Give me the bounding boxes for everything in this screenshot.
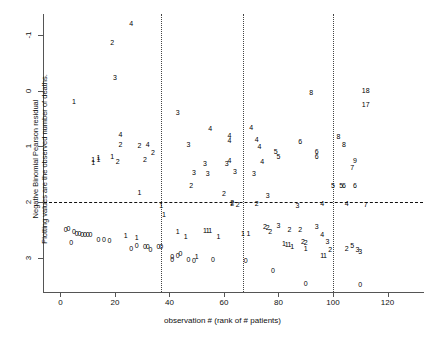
data-point: 3 — [358, 247, 362, 254]
data-point: 8 — [309, 88, 313, 95]
data-point: 2 — [116, 157, 120, 164]
data-point: 0 — [88, 231, 92, 238]
data-point: 1 — [91, 158, 95, 165]
scatter-plot-figure: 3210-1 020406080100120 00000000001111100… — [0, 0, 445, 341]
data-point: 5 — [277, 152, 281, 159]
data-point: 2 — [345, 244, 349, 251]
data-point: 3 — [326, 237, 330, 244]
data-point: 0 — [102, 235, 106, 242]
data-point: 1 — [72, 97, 76, 104]
data-point: 1 — [195, 253, 199, 260]
data-point: 1 — [124, 232, 128, 239]
divider-line-x100 — [333, 14, 334, 292]
data-point: 2 — [236, 200, 240, 207]
data-point: 1 — [241, 229, 245, 236]
data-point: 1 — [290, 243, 294, 250]
divider-line-x67 — [243, 14, 244, 292]
data-point: 3 — [113, 73, 117, 80]
y-axis-label-line2: Plotting values are the observed number … — [40, 59, 49, 259]
data-point: 4 — [345, 200, 349, 207]
x-tick-label-0: 0 — [50, 299, 70, 307]
data-point: 2 — [328, 246, 332, 253]
data-point: 3 — [233, 167, 237, 174]
data-point: 2 — [230, 198, 234, 205]
data-point: 17 — [362, 100, 370, 107]
data-point: 4 — [320, 231, 324, 238]
data-point: 0 — [69, 238, 73, 245]
data-point: 4 — [249, 123, 253, 130]
x-tick-0 — [60, 292, 61, 297]
x-tick-label-20: 20 — [105, 299, 125, 307]
y-axis-label-line1: Negative Binomial Pearson residual — [31, 59, 40, 259]
y-tick-3 — [38, 35, 43, 36]
data-point: 0 — [148, 245, 152, 252]
data-point: 0 — [187, 255, 191, 262]
data-point: 9 — [353, 157, 357, 164]
data-point: 1 — [110, 153, 114, 160]
data-point: 2 — [268, 227, 272, 234]
data-point: 2 — [118, 141, 122, 148]
data-point: 6 — [298, 138, 302, 145]
data-point: 0 — [97, 235, 101, 242]
data-point: 2 — [143, 156, 147, 163]
data-point: 4 — [227, 136, 231, 143]
data-point: 2 — [287, 226, 291, 233]
data-point: 7 — [350, 164, 354, 171]
data-point: 0 — [358, 281, 362, 288]
x-tick-40 — [169, 292, 170, 297]
data-point: 1 — [184, 233, 188, 240]
data-point: 3 — [266, 192, 270, 199]
x-tick-label-80: 80 — [268, 299, 288, 307]
x-tick-label-40: 40 — [159, 299, 179, 307]
y-tick-label-3: -1 — [25, 28, 33, 42]
data-point: 0 — [271, 266, 275, 273]
data-point: 0 — [170, 255, 174, 262]
data-point: 6 — [342, 182, 346, 189]
data-point: 1 — [323, 251, 327, 258]
data-point: 4 — [257, 143, 261, 150]
data-point: 5 — [350, 242, 354, 249]
x-tick-20 — [115, 292, 116, 297]
x-tick-120 — [388, 292, 389, 297]
data-point: 1 — [97, 155, 101, 162]
data-point: 3 — [315, 222, 319, 229]
data-point: 7 — [364, 200, 368, 207]
data-point: 0 — [129, 245, 133, 252]
divider-line-x37 — [161, 14, 162, 292]
x-tick-label-100: 100 — [323, 299, 343, 307]
x-tick-100 — [333, 292, 334, 297]
data-point: 0 — [135, 242, 139, 249]
data-point: 3 — [277, 221, 281, 228]
data-point: 1 — [137, 189, 141, 196]
data-point: 18 — [362, 86, 370, 93]
data-point: 8 — [342, 141, 346, 148]
y-axis-label: Negative Binomial Pearson residual Plott… — [31, 59, 49, 259]
data-point: 3 — [296, 201, 300, 208]
data-point: 0 — [211, 255, 215, 262]
data-point: 8 — [337, 133, 341, 140]
data-point: 6 — [315, 153, 319, 160]
data-point: 1 — [162, 211, 166, 218]
data-point: 4 — [129, 19, 133, 26]
data-point: 1 — [159, 201, 163, 208]
plot-area — [44, 14, 423, 292]
data-point: 3 — [192, 169, 196, 176]
data-point: 4 — [320, 200, 324, 207]
x-tick-label-120: 120 — [378, 299, 398, 307]
data-point: 0 — [159, 243, 163, 250]
data-point: 2 — [222, 190, 226, 197]
data-point: 2 — [189, 182, 193, 189]
data-point: 5 — [331, 182, 335, 189]
x-tick-60 — [224, 292, 225, 297]
data-point: 3 — [252, 170, 256, 177]
x-axis-label: observation # (rank of # patients) — [0, 316, 445, 325]
data-point: 3 — [187, 141, 191, 148]
data-point: 3 — [203, 160, 207, 167]
data-point: 1 — [176, 227, 180, 234]
data-point: 1 — [247, 229, 251, 236]
data-point: 0 — [178, 250, 182, 257]
data-point: 2 — [151, 148, 155, 155]
data-point: 4 — [146, 140, 150, 147]
data-point: 3 — [206, 170, 210, 177]
data-point: 6 — [353, 182, 357, 189]
